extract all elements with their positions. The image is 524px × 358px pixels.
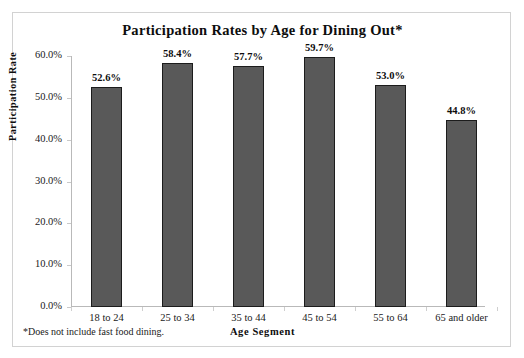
y-axis-label: Participation Rate [7, 52, 18, 141]
bar [304, 57, 335, 307]
x-tick-mark [142, 307, 143, 311]
bar-group: 53.0%55 to 64 [355, 56, 426, 307]
bar-value-label: 52.6% [71, 72, 142, 83]
bar-value-label: 53.0% [355, 70, 426, 81]
y-tick-label: 20.0% [35, 216, 62, 227]
bar-value-label: 58.4% [142, 48, 213, 59]
y-tick-label: 30.0% [35, 175, 62, 186]
x-tick-label: 65 and older [420, 312, 503, 323]
bar [233, 66, 264, 307]
bar-value-label: 59.7% [284, 42, 355, 53]
x-tick-mark [284, 307, 285, 311]
y-tick-label: 0.0% [40, 300, 62, 311]
x-tick-mark [71, 307, 72, 311]
bar [91, 87, 122, 307]
bar [375, 85, 406, 307]
y-tick-label: 50.0% [35, 91, 62, 102]
bar-group: 59.7%45 to 54 [284, 56, 355, 307]
bar-group: 52.6%18 to 24 [71, 56, 142, 307]
x-tick-mark [355, 307, 356, 311]
chart-figure: Participation Rates by Age for Dining Ou… [12, 12, 511, 347]
bar-group: 58.4%25 to 34 [142, 56, 213, 307]
x-tick-mark [213, 307, 214, 311]
y-tick-label: 60.0% [35, 49, 62, 60]
chart-footnote: *Does not include fast food dining. [23, 326, 164, 337]
y-tick-label: 40.0% [35, 133, 62, 144]
x-tick-mark [497, 307, 498, 311]
x-tick-mark [426, 307, 427, 311]
plot-area: 0.0%10.0%20.0%30.0%40.0%50.0%60.0% 52.6%… [71, 56, 485, 307]
bar [446, 120, 477, 307]
chart-title: Participation Rates by Age for Dining Ou… [13, 22, 512, 39]
y-tick-label: 10.0% [35, 258, 62, 269]
bar-value-label: 57.7% [213, 51, 284, 62]
bar-group: 57.7%35 to 44 [213, 56, 284, 307]
bar-group: 44.8%65 and older [426, 56, 497, 307]
bar-value-label: 44.8% [426, 105, 497, 116]
bar [162, 63, 193, 307]
